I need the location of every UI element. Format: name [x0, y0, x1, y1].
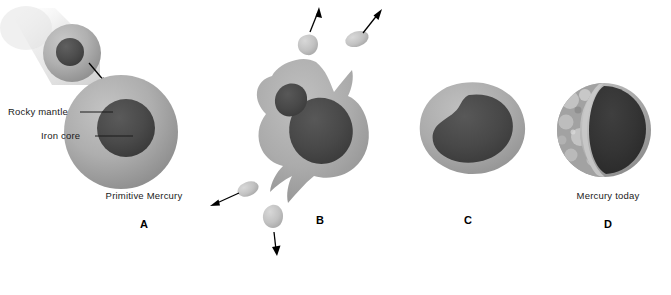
rocky-mantle-label: Rocky mantle: [8, 106, 68, 117]
panel-c-letter: C: [464, 214, 472, 226]
panel-a: Rocky mantle Iron core Primitive Mercury…: [0, 6, 182, 230]
panel-a-caption: Primitive Mercury: [106, 190, 183, 201]
panel-b: B: [210, 7, 382, 256]
impactor-trail-cap: [0, 6, 52, 50]
iron-core-label: Iron core: [41, 130, 80, 141]
ejecta-fragment-upper-right: [343, 9, 382, 50]
panel-b-letter: B: [316, 214, 324, 226]
panel-d-letter: D: [604, 218, 612, 230]
primitive-mercury-core: [97, 99, 155, 157]
panel-d-caption: Mercury today: [577, 190, 640, 201]
panel-d: Mercury today D: [555, 82, 651, 230]
panel-c: C: [420, 82, 525, 226]
panel-a-letter: A: [140, 218, 148, 230]
mercury-formation-figure: Rocky mantle Iron core Primitive Mercury…: [0, 0, 671, 295]
ejecta-fragment-left: [210, 178, 261, 206]
ejecta-fragment-up: [298, 7, 322, 55]
impactor-core: [56, 38, 84, 66]
ejecta-fragment-down: [263, 205, 283, 256]
